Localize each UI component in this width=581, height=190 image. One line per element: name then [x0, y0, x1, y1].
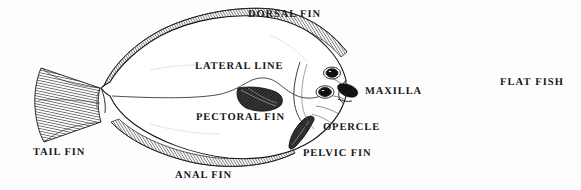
eye-lower: [316, 86, 334, 98]
label-pectoral-fin: PECTORAL FIN: [196, 113, 285, 124]
label-lateral-line: LATERAL LINE: [195, 62, 284, 73]
fish-body-group: [35, 8, 358, 166]
label-anal-fin: ANAL FIN: [175, 171, 232, 182]
fish-diagram-figure: DORSAL FIN LATERAL LINE PECTORAL FIN MAX…: [0, 0, 581, 190]
tail-fin-shape: [35, 68, 101, 142]
label-dorsal-fin: DORSAL FIN: [248, 10, 321, 21]
figure-title: FLAT FISH: [500, 78, 564, 89]
label-pelvic-fin: PELVIC FIN: [303, 149, 371, 160]
label-maxilla: MAXILLA: [365, 87, 422, 98]
fish-illustration: [0, 0, 581, 190]
label-opercle: OPERCLE: [323, 123, 380, 134]
eye-upper: [324, 67, 341, 79]
label-tail-fin: TAIL FIN: [33, 148, 85, 159]
